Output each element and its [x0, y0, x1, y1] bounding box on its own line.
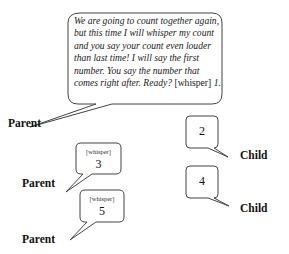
whisper-cue: [whisper]	[174, 77, 211, 88]
speaker-label-parent-1: Parent	[8, 117, 41, 129]
parent-number-5: 5	[80, 204, 124, 219]
speaker-label-child-2: Child	[240, 202, 268, 214]
main-bubble-text: We are going to count together again, bu…	[74, 15, 222, 89]
whisper-tag-3: [whisper]	[76, 148, 121, 155]
first-number: 1.	[214, 77, 221, 88]
speaker-label-parent-3: Parent	[22, 233, 55, 245]
whisper-tag-5: [whisper]	[80, 195, 124, 202]
parent-number-3: 3	[76, 157, 121, 172]
speaker-label-parent-2: Parent	[22, 177, 55, 189]
speaker-label-child-1: Child	[240, 149, 268, 161]
child-number-2: 2	[186, 124, 218, 139]
child-number-4: 4	[186, 174, 218, 189]
